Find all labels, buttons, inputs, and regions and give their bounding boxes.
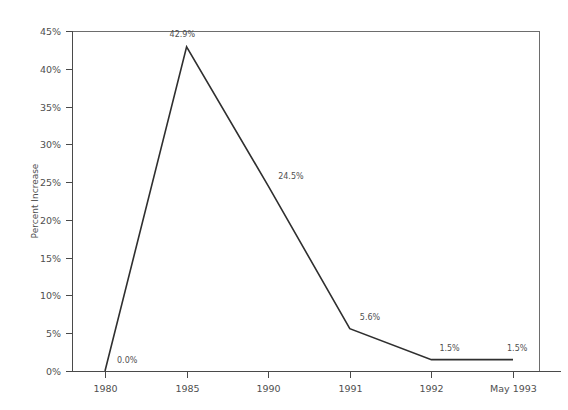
y-tick-label: 25% <box>40 177 61 188</box>
y-tick-label: 30% <box>40 139 61 150</box>
y-tick-label: 40% <box>40 64 61 75</box>
line-chart: 0%5%10%15%20%25%30%35%40%45% Percent Inc… <box>0 0 568 410</box>
data-point-label: 1.5% <box>439 344 460 353</box>
data-series-group: 0.0%42.9%24.5%5.6%1.5%1.5% <box>105 30 528 371</box>
y-tick-label: 45% <box>40 26 61 37</box>
chart-page: 0%5%10%15%20%25%30%35%40%45% Percent Inc… <box>0 0 568 410</box>
x-tick-label: 1991 <box>338 383 362 394</box>
y-axis-title: Percent Increase <box>30 163 40 238</box>
x-tick-label: 1980 <box>93 383 117 394</box>
plot-frame-top-right <box>73 32 540 372</box>
x-tick-label: 1992 <box>419 383 443 394</box>
x-tick-label: May 1993 <box>490 383 537 394</box>
y-tick-label: 15% <box>40 253 61 264</box>
x-axis-tick-labels: 19801985199019911992May 1993 <box>93 383 537 394</box>
x-tick-label: 1990 <box>256 383 280 394</box>
data-point-label: 5.6% <box>360 313 381 322</box>
y-tick-label: 20% <box>40 215 61 226</box>
y-tick-label: 0% <box>46 366 61 377</box>
plot-frame <box>73 32 540 372</box>
y-tick-label: 10% <box>40 290 61 301</box>
x-axis: 19801985199019911992May 1993 <box>73 372 561 395</box>
data-point-label: 42.9% <box>170 30 196 39</box>
y-axis: 0%5%10%15%20%25%30%35%40%45% Percent Inc… <box>30 26 73 377</box>
x-tick-label: 1985 <box>175 383 199 394</box>
series-line-percent-increase <box>105 47 513 371</box>
data-point-label: 24.5% <box>278 172 304 181</box>
y-tick-label: 5% <box>46 328 61 339</box>
x-axis-ticks <box>106 372 514 379</box>
data-point-label: 1.5% <box>507 344 528 353</box>
data-point-label: 0.0% <box>117 356 138 365</box>
y-tick-label: 35% <box>40 102 61 113</box>
y-axis-ticks <box>66 32 73 372</box>
y-axis-tick-labels: 0%5%10%15%20%25%30%35%40%45% <box>40 26 61 377</box>
